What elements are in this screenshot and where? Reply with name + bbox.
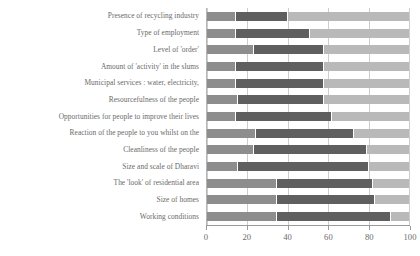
bar-segment-2 bbox=[253, 145, 366, 154]
bar-segment-1 bbox=[207, 29, 235, 38]
gridline bbox=[409, 8, 410, 225]
bar-row bbox=[207, 125, 409, 142]
bar-segment-2 bbox=[276, 179, 373, 188]
bar-row bbox=[207, 75, 409, 92]
bar-segment-1 bbox=[207, 95, 237, 104]
bar-track bbox=[207, 62, 409, 71]
category-label: Level of 'order' bbox=[0, 41, 203, 58]
bar-segment-3 bbox=[324, 79, 409, 88]
x-axis-tick bbox=[369, 226, 370, 230]
bar-row bbox=[207, 208, 409, 225]
bar-segment-1 bbox=[207, 129, 255, 138]
bar-segment-3 bbox=[310, 29, 409, 38]
bar-segment-3 bbox=[332, 112, 409, 121]
bar-segment-3 bbox=[354, 129, 409, 138]
bar-track bbox=[207, 129, 409, 138]
bar-segment-2 bbox=[276, 212, 391, 221]
bar-segment-2 bbox=[253, 45, 324, 54]
category-label: Reaction of the people to you whilst on … bbox=[0, 125, 203, 142]
bar-segment-1 bbox=[207, 145, 253, 154]
bar-segment-1 bbox=[207, 195, 276, 204]
x-axis-tick bbox=[247, 226, 248, 230]
x-axis-tick-labels: 020406080100 bbox=[206, 232, 410, 246]
bar-track bbox=[207, 45, 409, 54]
bar-track bbox=[207, 112, 409, 121]
category-label-column: Presence of recycling industryType of em… bbox=[0, 8, 203, 225]
category-label: The 'look' of residential area bbox=[0, 175, 203, 192]
category-label: Cleanliness of the people bbox=[0, 142, 203, 159]
x-axis-tick-label: 0 bbox=[204, 232, 208, 242]
bar-segment-3 bbox=[324, 95, 409, 104]
bar-segment-3 bbox=[288, 12, 409, 21]
bar-segment-3 bbox=[369, 162, 409, 171]
bar-segment-2 bbox=[235, 62, 324, 71]
bar-row bbox=[207, 91, 409, 108]
x-axis-tick-label: 100 bbox=[404, 232, 417, 242]
x-axis-tick bbox=[206, 226, 207, 230]
bar-row bbox=[207, 142, 409, 159]
bar-segment-3 bbox=[324, 45, 409, 54]
bar-segment-3 bbox=[373, 179, 409, 188]
bar-segment-2 bbox=[235, 112, 332, 121]
stacked-bar-chart: Presence of recycling industryType of em… bbox=[0, 0, 420, 256]
bar-segment-3 bbox=[367, 145, 409, 154]
bar-row bbox=[207, 41, 409, 58]
category-label: Presence of recycling industry bbox=[0, 8, 203, 25]
x-axis-tick bbox=[288, 226, 289, 230]
bar-segment-3 bbox=[324, 62, 409, 71]
bar-segment-1 bbox=[207, 112, 235, 121]
bar-segment-2 bbox=[237, 162, 368, 171]
bar-segment-1 bbox=[207, 45, 253, 54]
bar-row bbox=[207, 175, 409, 192]
bar-track bbox=[207, 29, 409, 38]
category-label: Resourcefulness of the people bbox=[0, 91, 203, 108]
bar-segment-2 bbox=[235, 12, 288, 21]
bar-segment-3 bbox=[375, 195, 409, 204]
bar-track bbox=[207, 145, 409, 154]
bar-segment-1 bbox=[207, 79, 235, 88]
bar-track bbox=[207, 12, 409, 21]
bar-segment-3 bbox=[391, 212, 409, 221]
category-label: Size of homes bbox=[0, 192, 203, 209]
bar-segment-1 bbox=[207, 62, 235, 71]
bar-segment-1 bbox=[207, 12, 235, 21]
bar-track bbox=[207, 79, 409, 88]
bar-segment-1 bbox=[207, 179, 276, 188]
bar-row bbox=[207, 192, 409, 209]
bar-row bbox=[207, 158, 409, 175]
category-label: Amount of 'activity' in the slums bbox=[0, 58, 203, 75]
bar-row bbox=[207, 108, 409, 125]
bar-track bbox=[207, 195, 409, 204]
x-axis-tick bbox=[328, 226, 329, 230]
x-axis-tick-label: 40 bbox=[283, 232, 292, 242]
bar-segment-2 bbox=[237, 95, 324, 104]
bar-segment-2 bbox=[235, 79, 324, 88]
x-axis bbox=[206, 225, 410, 232]
bar-track bbox=[207, 162, 409, 171]
category-label: Size and scale of Dharavi bbox=[0, 158, 203, 175]
category-label: Working conditions bbox=[0, 208, 203, 225]
x-axis-tick bbox=[410, 226, 411, 230]
bar-row bbox=[207, 58, 409, 75]
category-label: Type of employment bbox=[0, 25, 203, 42]
category-label: Municipal services : water, electricity, bbox=[0, 75, 203, 92]
bar-row bbox=[207, 8, 409, 25]
x-axis-tick-label: 20 bbox=[243, 232, 252, 242]
bar-track bbox=[207, 95, 409, 104]
bar-segment-1 bbox=[207, 212, 276, 221]
bar-track bbox=[207, 179, 409, 188]
plot-area bbox=[206, 8, 410, 225]
bar-segment-2 bbox=[255, 129, 354, 138]
category-label: Opportunities for people to improve thei… bbox=[0, 108, 203, 125]
bar-track bbox=[207, 212, 409, 221]
bar-segment-2 bbox=[276, 195, 375, 204]
x-axis-tick-label: 60 bbox=[324, 232, 333, 242]
bar-segment-2 bbox=[235, 29, 310, 38]
bar-segment-1 bbox=[207, 162, 237, 171]
bar-group bbox=[207, 8, 409, 225]
bar-row bbox=[207, 25, 409, 42]
x-axis-tick-label: 80 bbox=[365, 232, 374, 242]
